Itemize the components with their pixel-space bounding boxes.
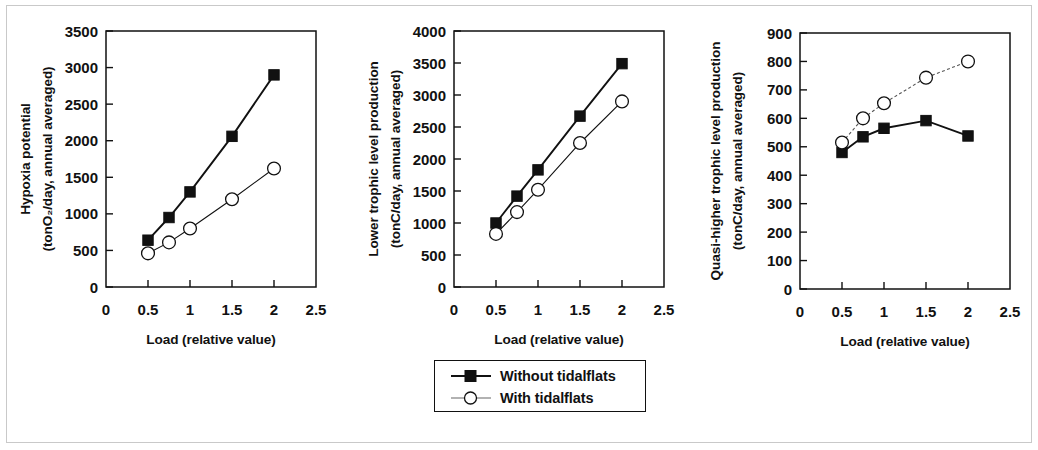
data-point-marker-square [963,131,973,141]
x-axis-tick-label: 2 [618,301,626,318]
data-point-marker-circle [511,206,524,219]
x-axis-tick-label: 0.5 [486,301,507,318]
y-axis-tick-label: 1500 [413,183,446,200]
x-axis-tick-label: 1 [880,303,888,320]
y-axis-title-line1: Quasi-higher trophic level production [708,42,723,281]
chart-panel-quasi-higher-trophic-level-production: 010020030040050060070080090000.511.522.5… [692,0,1038,350]
x-axis-tick-label: 1.5 [570,301,591,318]
data-point-marker-square [269,70,279,80]
y-axis-tick-label: 200 [767,224,792,241]
data-point-marker-square [533,165,543,175]
legend-item-with-tidalflats: With tidalflats [435,387,645,409]
data-point-marker-square [879,123,889,133]
y-axis-tick-label: 2000 [65,132,98,149]
data-point-marker-circle [490,227,503,240]
chart-svg-0: 050010001500200025003000350000.511.522.5… [0,0,346,350]
y-axis-tick-label: 600 [767,110,792,127]
data-point-marker-circle [142,247,155,260]
x-axis-tick-label: 2.5 [654,301,675,318]
data-point-marker-circle [226,193,239,206]
legend-box: Without tidalflats With tidalflats [434,360,646,412]
y-axis-tick-label: 500 [767,138,792,155]
series-line-with-tidalflats [842,61,968,142]
data-point-marker-circle [532,183,545,196]
plot-area-border [800,33,1010,289]
data-point-marker-square [185,187,195,197]
y-axis-tick-label: 1000 [413,215,446,232]
x-axis-tick-label: 2.5 [306,301,327,318]
chart-svg-1: 0500100015002000250030003500400000.511.5… [346,0,692,350]
y-axis-tick-label: 300 [767,195,792,212]
y-axis-tick-label: 700 [767,81,792,98]
plot-area-border [454,31,664,287]
y-axis-tick-label: 1000 [65,205,98,222]
y-axis-title-line2: (tonO₂/day, annual averaged) [40,66,55,251]
y-axis-tick-label: 3500 [413,55,446,72]
data-point-marker-circle [184,222,197,235]
chart-panels: 050010001500200025003000350000.511.522.5… [0,0,1038,350]
y-axis-tick-label: 4000 [413,23,446,40]
y-axis-tick-label: 0 [438,279,446,296]
x-axis-tick-label: 1 [534,301,542,318]
data-point-marker-square [858,132,868,142]
x-axis-tick-label: 1.5 [916,303,937,320]
y-axis-tick-label: 500 [73,242,98,259]
y-axis-tick-label: 100 [767,252,792,269]
y-axis-tick-label: 3000 [65,59,98,76]
data-point-marker-circle [857,112,870,125]
data-point-marker-square [617,58,627,68]
legend-item-without-tidalflats: Without tidalflats [435,365,645,387]
chart-panel-lower-trophic-level-production: 0500100015002000250030003500400000.511.5… [346,0,692,350]
y-axis-title-line1: Hypoxia potential [18,103,33,215]
x-axis-title: Load (relative value) [146,332,275,347]
data-point-marker-circle [962,55,975,68]
chart-svg-2: 010020030040050060070080090000.511.522.5… [692,0,1038,350]
data-point-marker-circle [268,162,281,175]
data-point-marker-square [227,131,237,141]
y-axis-tick-label: 3000 [413,87,446,104]
y-axis-tick-label: 800 [767,53,792,70]
data-point-marker-square [575,111,585,121]
legend-marker-open-circle [449,390,493,406]
y-axis-title-line2: (tonC/day, annual averaged) [730,72,745,250]
data-point-marker-circle [574,137,587,150]
x-axis-tick-label: 0 [450,301,458,318]
x-axis-tick-label: 2 [964,303,972,320]
y-axis-tick-label: 400 [767,167,792,184]
x-axis-tick-label: 1 [186,301,194,318]
x-axis-tick-label: 0.5 [138,301,159,318]
plot-area-border [106,31,316,287]
y-axis-tick-label: 2500 [65,96,98,113]
data-point-marker-square [512,191,522,201]
legend-marker-filled-square [449,368,493,384]
x-axis-title: Load (relative value) [494,332,623,347]
y-axis-tick-label: 2000 [413,151,446,168]
x-axis-tick-label: 2.5 [1000,303,1021,320]
x-axis-tick-label: 0 [102,301,110,318]
data-point-marker-circle [616,95,629,108]
legend-label-with-tidalflats: With tidalflats [500,390,593,406]
data-point-marker-circle [163,236,176,249]
y-axis-tick-label: 900 [767,25,792,42]
x-axis-tick-label: 0 [796,303,804,320]
y-axis-tick-label: 0 [784,281,792,298]
data-point-marker-circle [836,136,849,149]
data-point-marker-square [491,218,501,228]
y-axis-tick-label: 2500 [413,119,446,136]
y-axis-tick-label: 1500 [65,169,98,186]
x-axis-tick-label: 1.5 [222,301,243,318]
x-axis-title: Load (relative value) [840,334,969,349]
data-point-marker-square [921,115,931,125]
x-axis-tick-label: 0.5 [832,303,853,320]
data-point-marker-circle [920,71,933,84]
y-axis-tick-label: 3500 [65,23,98,40]
data-point-marker-square [143,235,153,245]
y-axis-tick-label: 0 [90,279,98,296]
y-axis-title-line1: Lower trophic level production [366,61,381,257]
data-point-marker-square [164,212,174,222]
y-axis-title-line2: (tonC/day, annual averaged) [388,70,403,248]
data-point-marker-circle [878,97,891,110]
y-axis-tick-label: 500 [421,247,446,264]
chart-panel-hypoxia-potential: 050010001500200025003000350000.511.522.5… [0,0,346,350]
legend-label-without-tidalflats: Without tidalflats [500,368,616,384]
